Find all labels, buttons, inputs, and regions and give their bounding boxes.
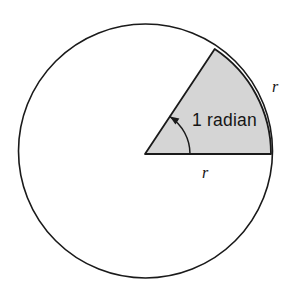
radius-label-right: r xyxy=(272,78,279,95)
shaded-sector xyxy=(145,49,271,154)
radius-label-bottom: r xyxy=(202,164,209,181)
angle-label: 1 radian xyxy=(192,110,257,130)
diagram-canvas: 1 radian r r xyxy=(0,0,288,296)
radian-diagram-figure: 1 radian r r xyxy=(0,0,288,296)
